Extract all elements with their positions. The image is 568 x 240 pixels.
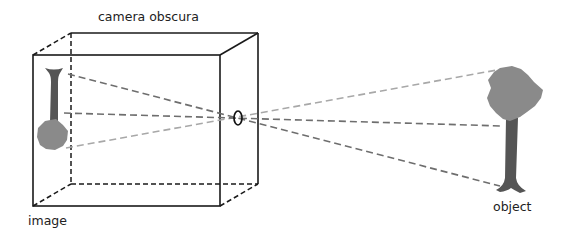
edge-bottom-right-depth xyxy=(220,184,258,206)
inverted-tree-image xyxy=(37,68,68,150)
object-crown-icon xyxy=(487,66,543,121)
light-rays xyxy=(64,70,502,186)
title-label: camera obscura xyxy=(98,11,199,24)
image-crown-icon xyxy=(37,119,68,150)
ray-crown xyxy=(66,70,497,148)
ray-middle xyxy=(64,113,502,126)
ray-base xyxy=(68,74,500,186)
camera-obscura-diagram xyxy=(0,0,568,240)
object-label: object xyxy=(493,201,532,214)
object-trunk-icon xyxy=(496,118,526,193)
edge-bottom-left-depth xyxy=(33,184,71,206)
image-trunk-icon xyxy=(45,68,63,122)
edge-top-left-depth xyxy=(33,33,71,55)
edge-top-right-depth xyxy=(220,33,258,55)
image-label: image xyxy=(28,215,67,228)
tree-object xyxy=(487,66,543,193)
